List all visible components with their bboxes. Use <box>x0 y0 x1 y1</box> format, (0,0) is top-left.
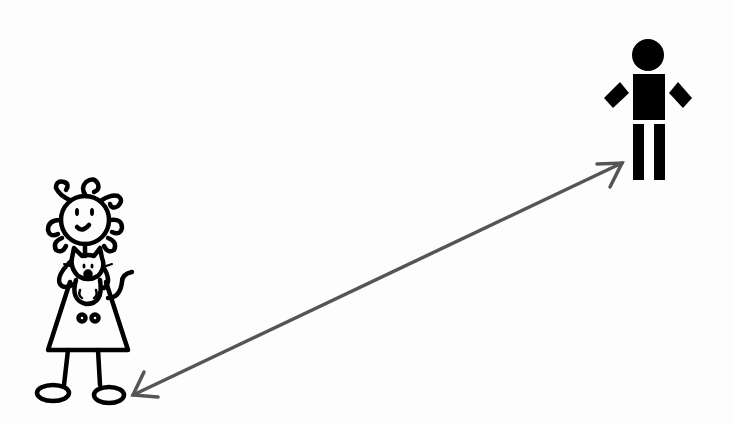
illustration-canvas <box>0 0 733 423</box>
pictogram-person-figure <box>604 39 692 180</box>
double-headed-arrow <box>133 163 622 397</box>
scene-svg <box>0 0 733 423</box>
girl-with-cat-figure <box>37 179 132 403</box>
